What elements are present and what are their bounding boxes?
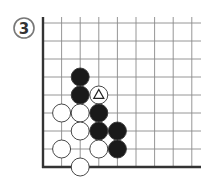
black-stone [90, 122, 108, 140]
black-stone [71, 86, 89, 104]
white-stone-icon [71, 122, 89, 140]
white-stone-icon [53, 140, 71, 158]
stones-layer [53, 68, 127, 176]
black-stone [108, 140, 126, 158]
black-stone-icon [108, 140, 126, 158]
black-stone-icon [71, 86, 89, 104]
white-stone [71, 158, 89, 176]
black-stone [90, 104, 108, 122]
white-stone [90, 140, 108, 158]
black-stone-icon [71, 68, 89, 86]
problem-number-label: 3 [14, 18, 34, 38]
white-stone [71, 104, 89, 122]
white-stone-icon [90, 140, 108, 158]
white-stone-icon [71, 104, 89, 122]
white-stone-icon [71, 158, 89, 176]
white-stone [90, 86, 108, 104]
go-board-diagram: 3 [0, 0, 215, 179]
black-stone [108, 122, 126, 140]
white-stone [71, 122, 89, 140]
black-stone [71, 68, 89, 86]
black-stone-icon [90, 122, 108, 140]
black-stone-icon [108, 122, 126, 140]
white-stone [53, 140, 71, 158]
problem-number: 3 [19, 20, 29, 38]
white-stone [53, 104, 71, 122]
black-stone-icon [90, 104, 108, 122]
white-stone-icon [53, 104, 71, 122]
